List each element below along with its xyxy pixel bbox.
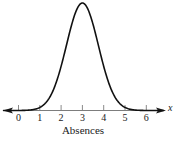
x-tick-label-5: 5 [118, 112, 132, 123]
normal-distribution-figure: 0 1 2 3 4 5 6 x Absences [0, 0, 178, 143]
x-tick-label-1: 1 [33, 112, 47, 123]
x-tick-label-3: 3 [75, 112, 89, 123]
x-tick-label-2: 2 [54, 112, 68, 123]
x-tick-label-0: 0 [12, 112, 26, 123]
bell-curve-path [4, 3, 164, 110]
x-tick-label-4: 4 [97, 112, 111, 123]
x-tick-label-6: 6 [139, 112, 153, 123]
x-axis-ticks [19, 105, 147, 110]
x-axis-title: Absences [0, 124, 166, 137]
x-axis-variable-label: x [168, 102, 172, 113]
